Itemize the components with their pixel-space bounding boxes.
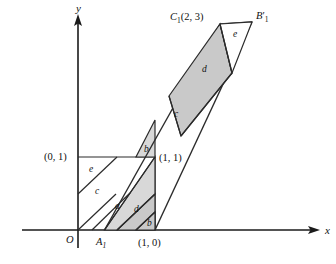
point-0-1-label: (0, 1): [44, 151, 67, 163]
piece-e-upper-label: e: [233, 29, 237, 39]
axes-group: [22, 14, 320, 248]
piece-d-upper-label: d: [202, 64, 207, 74]
piece-b-lower-label: b: [147, 218, 152, 228]
point-b1-prime-label: B′1: [256, 10, 269, 24]
piece-d-upper-shape: [169, 24, 232, 136]
lower-shaded-pieces: [105, 120, 156, 230]
piece-d-lower-label: d: [134, 204, 139, 214]
piece-e-lower-label: e: [89, 164, 93, 174]
point-c1-label: C1(2, 3): [170, 11, 204, 25]
figure-canvas: y x O A1 (1, 0) (0, 1) (1, 1) C1(2, 3) B…: [0, 0, 336, 264]
y-axis-label: y: [75, 2, 81, 14]
piece-c-lower-label: c: [95, 186, 100, 196]
origin-label: O: [66, 234, 74, 245]
point-1-1-label: (1, 1): [159, 152, 182, 164]
x-axis-label: x: [324, 224, 330, 236]
point-1-0-label: (1, 0): [138, 237, 161, 249]
geometry-figure: y x O A1 (1, 0) (0, 1) (1, 1) C1(2, 3) B…: [0, 0, 336, 264]
point-a1-label: A1: [95, 236, 106, 250]
piece-b-mid-label: b: [144, 144, 149, 154]
piece-a-lower-label: a: [115, 201, 120, 211]
upper-shaded-pieces: [169, 22, 252, 136]
